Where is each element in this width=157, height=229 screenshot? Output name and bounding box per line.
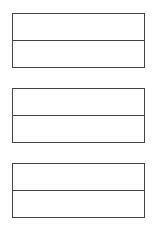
box-1-top-cell bbox=[13, 14, 144, 41]
box-2-bottom-cell bbox=[13, 116, 144, 143]
box-1-bottom-cell bbox=[13, 41, 144, 68]
box-3-top-cell bbox=[13, 164, 144, 191]
two-cell-box-3 bbox=[12, 163, 145, 218]
box-3-bottom-cell bbox=[13, 191, 144, 218]
two-cell-box-1 bbox=[12, 13, 145, 68]
box-2-top-cell bbox=[13, 89, 144, 116]
two-cell-box-2 bbox=[12, 88, 145, 143]
